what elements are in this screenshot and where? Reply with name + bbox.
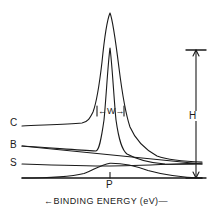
xps-peak-schematic-figure: C B S P H ←W→ ←BINDING ENERGY (eV)— bbox=[0, 0, 212, 218]
x-axis-caption: ←BINDING ENERGY (eV)— bbox=[0, 196, 212, 206]
curve-label-c: C bbox=[10, 118, 17, 128]
curve-b-linear-background bbox=[22, 146, 202, 164]
peak-position-label-p: P bbox=[106, 180, 113, 190]
curve-inelastic-tail bbox=[22, 163, 202, 178]
peak-height-label-h: H bbox=[188, 111, 197, 121]
curve-c-measured-spectrum bbox=[22, 13, 202, 162]
peak-width-label-w: ←W→ bbox=[98, 107, 125, 116]
curve-label-b: B bbox=[10, 140, 17, 150]
curve-label-s: S bbox=[10, 158, 17, 168]
